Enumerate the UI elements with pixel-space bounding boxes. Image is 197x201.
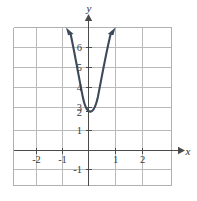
x-tick-label-2: 2 xyxy=(140,154,145,165)
y-tick-label-1: 1 xyxy=(77,125,82,136)
x-axis-label: x xyxy=(185,145,191,157)
x-tick-label-1: 1 xyxy=(113,154,118,165)
y-axis-label: y xyxy=(86,2,92,14)
x-tick-label-minus2: -2 xyxy=(32,154,41,165)
y-tick-label-minus1: -1 xyxy=(73,164,82,175)
coordinate-plane-svg: -2 -1 1 2 6 5 4 3 2 1 -1 x y xyxy=(0,0,197,201)
y-tick-label-5: 5 xyxy=(77,62,82,73)
x-axis-arrowhead xyxy=(178,147,185,154)
y-axis-arrowhead xyxy=(85,14,92,21)
tick-marks-group xyxy=(37,48,143,170)
y-tick-label-2: 2 xyxy=(77,107,82,118)
y-tick-label-6: 6 xyxy=(77,42,82,53)
x-tick-label-minus1: -1 xyxy=(58,154,67,165)
parabola-right-arrowhead xyxy=(108,28,116,36)
parabola-graph-figure: -2 -1 1 2 6 5 4 3 2 1 -1 x y xyxy=(0,0,197,201)
parabola-left-arrowhead xyxy=(66,28,74,36)
y-tick-label-4: 4 xyxy=(77,82,83,93)
parabola-curve-group xyxy=(66,28,115,112)
